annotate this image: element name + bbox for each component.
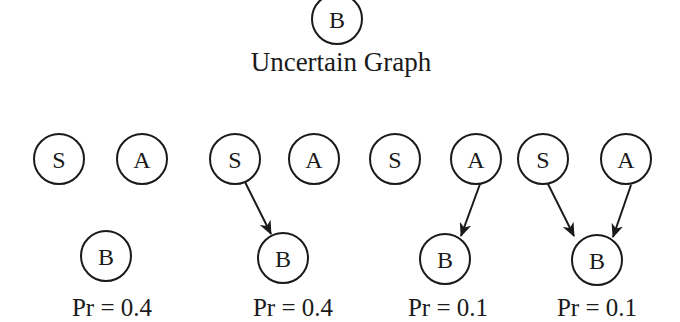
node-a: A <box>289 134 339 184</box>
edge-a-to-b <box>461 184 480 236</box>
probability-label: Pr = 0.1 <box>557 294 637 321</box>
node-label: B <box>589 248 605 274</box>
node-label: B <box>437 247 453 273</box>
node-a: A <box>601 134 651 184</box>
node-label: A <box>133 147 151 173</box>
node-label: B <box>329 7 345 33</box>
node-label: S <box>228 147 241 173</box>
node-s: S <box>34 134 84 184</box>
node-s: S <box>370 134 420 184</box>
possible-world-2: S A B Pr = 0.4 <box>210 134 339 321</box>
node-b: B <box>81 231 131 281</box>
node-label: S <box>536 147 549 173</box>
node-s: S <box>518 134 568 184</box>
node-b: B <box>258 233 308 283</box>
edge-a-to-b <box>613 185 631 237</box>
possible-world-1: S A B Pr = 0.4 <box>34 134 167 321</box>
node-b: B <box>572 235 622 285</box>
probability-label: Pr = 0.4 <box>253 294 334 321</box>
node-a: A <box>451 134 501 184</box>
node-b-top: B <box>312 0 362 44</box>
uncertain-graph: B Uncertain Graph <box>251 0 432 77</box>
diagram-title: Uncertain Graph <box>251 47 432 77</box>
possible-world-4: S A B Pr = 0.1 <box>518 134 651 321</box>
node-label: A <box>305 147 323 173</box>
node-a: A <box>117 134 167 184</box>
probability-label: Pr = 0.4 <box>72 294 153 321</box>
edge-s-to-b <box>245 182 271 234</box>
node-label: S <box>388 147 401 173</box>
node-label: B <box>98 244 114 270</box>
edge-s-to-b <box>548 184 574 236</box>
possible-world-3: S A B Pr = 0.1 <box>370 134 501 321</box>
node-label: A <box>467 147 485 173</box>
probability-label: Pr = 0.1 <box>408 294 488 321</box>
node-b: B <box>420 234 470 284</box>
uncertain-graph-diagram: B Uncertain Graph S A B Pr = 0.4 S A <box>0 0 680 322</box>
node-label: S <box>52 147 65 173</box>
node-label: B <box>275 246 291 272</box>
node-s: S <box>210 134 260 184</box>
node-label: A <box>617 147 635 173</box>
